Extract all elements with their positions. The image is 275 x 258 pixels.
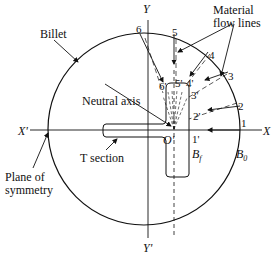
point-3: 3 <box>228 70 234 82</box>
point-4: 4 <box>209 49 215 61</box>
y-prime-label: Y' <box>143 241 153 255</box>
point-4-prime: 4' <box>186 77 194 89</box>
plane-of-symmetry-label-1: Plane of <box>5 170 45 184</box>
material-flow-label-line1: Material <box>213 3 254 17</box>
extrusion-diagram: Billet Material flow lines Neutral axis … <box>0 0 275 258</box>
plane-of-symmetry-label-2: symmetry <box>5 183 53 197</box>
origin-label: O' <box>163 133 175 147</box>
y-axis-label: Y <box>143 2 151 16</box>
point-3-prime: 3' <box>191 89 199 101</box>
point-2-prime: 2' <box>193 110 201 122</box>
bf-label: Bf <box>192 147 203 163</box>
point-6-prime: 6' <box>159 80 167 92</box>
point-1: 1 <box>241 117 247 129</box>
x-prime-label: X' <box>17 124 28 138</box>
point-1-prime: 1' <box>192 133 200 145</box>
point-5: 5 <box>172 26 178 38</box>
neutral-axis-label: Neutral axis <box>82 94 141 108</box>
t-section-label: T section <box>80 151 124 165</box>
point-2: 2 <box>238 100 244 112</box>
point-6: 6 <box>136 23 142 35</box>
x-axis-label: X <box>262 124 271 138</box>
b0-label: B0 <box>236 147 247 163</box>
billet-circle <box>48 33 240 225</box>
material-flow-label-line2: flow lines <box>213 16 261 30</box>
point-5-prime: 5' <box>175 77 183 89</box>
billet-label: Billet <box>40 27 67 41</box>
